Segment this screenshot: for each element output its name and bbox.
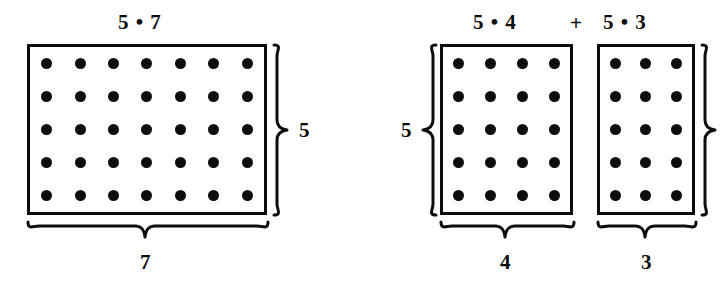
dot-cell — [130, 146, 163, 179]
dot-cell — [600, 80, 631, 113]
dot-cell — [631, 80, 662, 113]
dot — [549, 124, 560, 135]
dot — [640, 157, 651, 168]
dot — [671, 58, 682, 69]
dot — [549, 190, 560, 201]
dot — [671, 190, 682, 201]
dot — [485, 124, 496, 135]
dot-cell — [443, 80, 475, 113]
dot — [75, 157, 86, 168]
dot-cell — [30, 80, 63, 113]
dot-cell — [164, 80, 197, 113]
dot — [242, 190, 253, 201]
dot — [208, 157, 219, 168]
dot-cell — [661, 47, 692, 80]
dot-cell — [30, 146, 63, 179]
dot-cell — [443, 146, 475, 179]
dot — [671, 124, 682, 135]
dot — [485, 58, 496, 69]
dot-cell — [164, 179, 197, 212]
dot-cell — [63, 113, 96, 146]
dot — [208, 58, 219, 69]
dot-cell — [97, 146, 130, 179]
right-second-dot-grid — [600, 47, 692, 212]
dot-cell — [130, 179, 163, 212]
dot — [453, 91, 464, 102]
dot — [640, 58, 651, 69]
dot-cell — [164, 113, 197, 146]
dot-cell — [538, 113, 570, 146]
dot-cell — [231, 80, 264, 113]
dot — [485, 157, 496, 168]
dot-cell — [600, 47, 631, 80]
dot — [640, 124, 651, 135]
dot-cell — [97, 80, 130, 113]
dot-cell — [30, 179, 63, 212]
left-array-width-brace — [25, 219, 271, 245]
dot — [208, 124, 219, 135]
dot — [517, 157, 528, 168]
dot-cell — [631, 179, 662, 212]
dot-cell — [231, 113, 264, 146]
dot — [208, 190, 219, 201]
dot — [549, 157, 560, 168]
dot — [610, 157, 621, 168]
dot — [41, 124, 52, 135]
dot-cell — [164, 47, 197, 80]
dot-cell — [231, 47, 264, 80]
dot — [485, 190, 496, 201]
right-second-array-top-label: 5 • 3 — [603, 12, 647, 33]
dot — [175, 58, 186, 69]
dot-cell — [197, 113, 230, 146]
dot — [610, 124, 621, 135]
dot-cell — [443, 47, 475, 80]
dot-cell — [538, 179, 570, 212]
dot-cell — [63, 146, 96, 179]
dot — [453, 190, 464, 201]
dot-cell — [197, 146, 230, 179]
right-second-array-width-brace — [595, 219, 699, 245]
dot-cell — [63, 179, 96, 212]
dot-cell — [97, 179, 130, 212]
dot — [175, 91, 186, 102]
dot-cell — [661, 146, 692, 179]
dot-cell — [30, 113, 63, 146]
right-group-closing-brace — [698, 42, 721, 218]
dot — [242, 157, 253, 168]
dot-cell — [538, 47, 570, 80]
dot — [453, 124, 464, 135]
dot — [640, 91, 651, 102]
dot-cell — [631, 113, 662, 146]
dot — [242, 124, 253, 135]
right-second-array-width-label: 3 — [641, 252, 652, 273]
dot-cell — [661, 113, 692, 146]
dot — [108, 157, 119, 168]
dot — [453, 157, 464, 168]
dot-cell — [197, 179, 230, 212]
dot — [175, 157, 186, 168]
right-first-array-top-label: 5 • 4 — [473, 12, 517, 33]
dot — [108, 124, 119, 135]
dot-cell — [507, 47, 539, 80]
dot-cell — [164, 146, 197, 179]
dot-cell — [475, 146, 507, 179]
dot — [610, 91, 621, 102]
dot-cell — [475, 47, 507, 80]
dot — [610, 58, 621, 69]
dot — [141, 58, 152, 69]
dot — [549, 58, 560, 69]
dot — [671, 91, 682, 102]
dot-cell — [130, 113, 163, 146]
dot — [517, 124, 528, 135]
dot-cell — [475, 113, 507, 146]
dot — [41, 190, 52, 201]
dot — [75, 124, 86, 135]
right-first-array-width-brace — [438, 219, 577, 245]
dot-cell — [661, 179, 692, 212]
right-first-array-width-label: 4 — [500, 252, 511, 273]
dot-cell — [475, 80, 507, 113]
dot — [141, 190, 152, 201]
dot — [485, 91, 496, 102]
dot-cell — [197, 80, 230, 113]
dot — [671, 157, 682, 168]
